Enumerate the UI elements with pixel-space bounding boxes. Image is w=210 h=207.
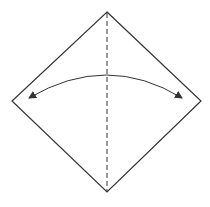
diagram-canvas (0, 0, 210, 207)
origami-diagram (0, 0, 210, 207)
